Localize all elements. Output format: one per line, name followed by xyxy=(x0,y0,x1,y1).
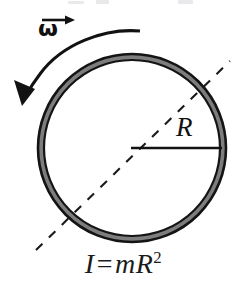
equation-operator: = xyxy=(95,248,115,279)
physics-figure: ω R I=mR2 xyxy=(0,0,247,289)
equation-exponent: 2 xyxy=(153,248,162,267)
figure-canvas xyxy=(0,0,247,289)
radius-label: R xyxy=(176,114,193,141)
moment-of-inertia-equation: I=mR2 xyxy=(0,250,247,278)
rotation-arrow xyxy=(14,31,140,106)
equation-lhs: I xyxy=(85,248,95,279)
equation-radius-symbol: R xyxy=(136,248,154,279)
equation-mass-symbol: m xyxy=(115,248,136,279)
omega-symbol: ω xyxy=(38,19,58,40)
omega-vector-arrow-head xyxy=(65,16,75,25)
angular-velocity-label: ω xyxy=(38,18,58,41)
